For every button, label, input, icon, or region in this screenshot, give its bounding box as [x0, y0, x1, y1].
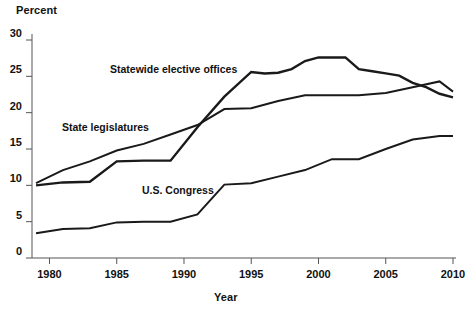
x-tick-label: 1980 — [29, 268, 69, 280]
x-tick-label: 1985 — [97, 268, 137, 280]
x-tick-label: 1995 — [231, 268, 271, 280]
y-tick-label: 0 — [2, 245, 22, 257]
y-tick-label: 30 — [2, 27, 22, 39]
y-tick-label: 20 — [2, 100, 22, 112]
series-line-u-s-congress — [36, 136, 453, 233]
series-lines — [36, 57, 453, 233]
y-tick-label: 5 — [2, 209, 22, 221]
x-tick-label: 2005 — [366, 268, 406, 280]
y-tick-label: 25 — [2, 63, 22, 75]
y-tick-label: 15 — [2, 136, 22, 148]
chart-container: Percent Year 051015202530 19801985199019… — [0, 0, 474, 315]
series-label-statewide-elective-offices: Statewide elective offices — [110, 63, 237, 75]
x-tick-label: 2010 — [433, 268, 473, 280]
x-tick-label: 1990 — [164, 268, 204, 280]
y-tick-label: 10 — [2, 172, 22, 184]
x-tick-label: 2000 — [298, 268, 338, 280]
series-label-state-legislatures: State legislatures — [62, 121, 149, 133]
series-label-us-congress: U.S. Congress — [142, 184, 214, 196]
